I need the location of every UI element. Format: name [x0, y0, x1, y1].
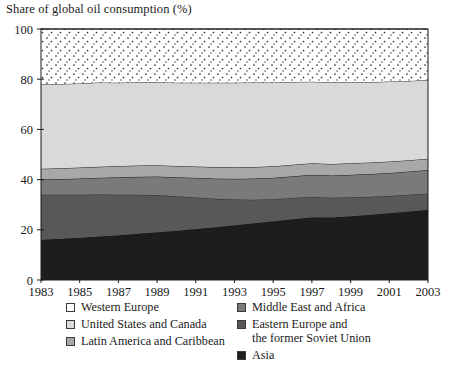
legend-label-middle-east-and-africa: Middle East and Africa	[252, 300, 365, 314]
legend-label-asia: Asia	[252, 348, 274, 362]
y-tick-label: 80	[21, 73, 34, 87]
legend-column-right: Middle East and Africa Eastern Europe an…	[237, 300, 371, 365]
legend-item-western-europe[interactable]: Western Europe	[66, 300, 225, 314]
x-tick-label: 1989	[145, 285, 170, 299]
legend-swatch-eastern-europe-and-former-soviet-union	[237, 320, 246, 329]
stacked-area-bands	[41, 29, 428, 280]
y-tick-label: 20	[21, 223, 34, 237]
legend-item-latin-america-and-caribbean[interactable]: Latin America and Caribbean	[66, 334, 225, 348]
legend-label-western-europe: Western Europe	[81, 300, 159, 314]
area-chart-plot: 0204060801001983198519871989199119931995…	[0, 0, 449, 300]
legend-swatch-western-europe	[66, 303, 75, 312]
y-tick-label: 100	[14, 23, 33, 37]
x-tick-label: 1995	[261, 285, 286, 299]
legend-item-united-states-and-canada[interactable]: United States and Canada	[66, 317, 225, 331]
legend-label-eastern-europe-and-former-soviet-union: Eastern Europe and the former Soviet Uni…	[252, 317, 371, 345]
legend-item-eastern-europe-and-former-soviet-union[interactable]: Eastern Europe and the former Soviet Uni…	[237, 317, 371, 345]
area-band-western-europe	[41, 29, 428, 84]
area-band-united-states-and-canada	[41, 80, 428, 169]
x-tick-label: 1985	[67, 285, 92, 299]
x-tick-label: 1987	[106, 285, 131, 299]
x-tick-label: 1997	[299, 285, 324, 299]
y-tick-label: 60	[21, 123, 34, 137]
x-tick-label: 1999	[338, 285, 363, 299]
x-tick-label: 2003	[416, 285, 441, 299]
y-tick-label: 40	[21, 173, 34, 187]
x-tick-label: 1993	[222, 285, 247, 299]
figure: Share of global oil consumption (%) 0204…	[0, 0, 449, 366]
legend-swatch-united-states-and-canada	[66, 320, 75, 329]
legend-item-middle-east-and-africa[interactable]: Middle East and Africa	[237, 300, 371, 314]
x-tick-label: 2001	[377, 285, 402, 299]
legend-swatch-latin-america-and-caribbean	[66, 337, 75, 346]
legend-label-latin-america-and-caribbean: Latin America and Caribbean	[81, 334, 225, 348]
chart-legend: Western Europe United States and Canada …	[0, 300, 449, 366]
legend-swatch-asia	[237, 351, 246, 360]
legend-item-asia[interactable]: Asia	[237, 348, 371, 362]
x-tick-label: 1991	[183, 285, 208, 299]
legend-column-left: Western Europe United States and Canada …	[66, 300, 225, 351]
legend-swatch-middle-east-and-africa	[237, 303, 246, 312]
legend-label-united-states-and-canada: United States and Canada	[81, 317, 207, 331]
x-tick-label: 1983	[29, 285, 54, 299]
